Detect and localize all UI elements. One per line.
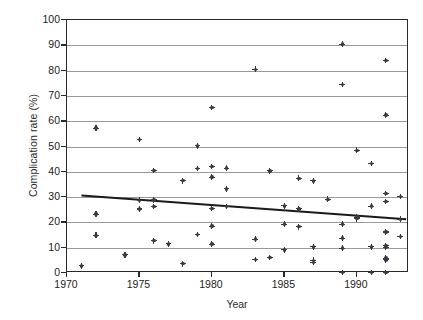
data-point [80, 264, 84, 268]
data-point [384, 230, 388, 234]
y-axis-tick-mark [61, 70, 66, 71]
data-point [297, 225, 301, 229]
data-point [384, 271, 388, 275]
data-point [399, 235, 403, 239]
data-point [283, 204, 287, 208]
y-axis-tick-label: 80 [26, 65, 60, 76]
y-axis-tick-label: 50 [26, 141, 60, 152]
data-point [94, 126, 98, 130]
x-axis-tick-label: 1980 [191, 278, 231, 290]
data-point [210, 165, 214, 169]
data-point [225, 205, 229, 209]
data-point [384, 192, 388, 196]
data-point [384, 59, 388, 63]
data-point [210, 224, 214, 228]
data-point [355, 149, 359, 153]
chart-figure: Complication rate (%) 010203040506070809… [0, 0, 423, 320]
data-point [370, 204, 374, 208]
data-point [123, 253, 127, 257]
data-point [341, 222, 345, 226]
data-point [94, 212, 98, 216]
data-point [384, 245, 388, 249]
data-point [152, 169, 156, 173]
data-point [370, 162, 374, 166]
data-point [138, 207, 142, 211]
data-point [297, 207, 301, 211]
data-point [138, 199, 142, 203]
data-point [283, 248, 287, 252]
data-point [384, 113, 388, 117]
data-point [225, 166, 229, 170]
data-point [94, 234, 98, 238]
data-point [196, 167, 200, 171]
data-point [210, 106, 214, 110]
data-point [268, 256, 272, 260]
y-axis-tick-label: 30 [26, 191, 60, 202]
y-axis-tick-mark [61, 95, 66, 96]
y-axis-tick-mark [61, 221, 66, 222]
x-axis-tick-mark [138, 272, 139, 277]
data-point [399, 195, 403, 199]
data-point [297, 177, 301, 181]
data-point [341, 42, 345, 46]
y-axis-tick-mark [61, 44, 66, 45]
y-axis-tick-mark [61, 19, 66, 20]
data-point [326, 198, 330, 202]
data-point [341, 271, 345, 275]
data-point [138, 138, 142, 142]
y-axis-tick-mark [61, 146, 66, 147]
data-point [152, 205, 156, 209]
y-axis-tick-label: 20 [26, 216, 60, 227]
data-point [152, 239, 156, 243]
y-axis-tick-label: 60 [26, 115, 60, 126]
data-point [268, 169, 272, 173]
x-axis-tick-mark [211, 272, 212, 277]
data-point [254, 68, 258, 72]
x-axis-tick-label: 1985 [263, 278, 303, 290]
x-axis-tick-mark [356, 272, 357, 277]
x-axis-tick-mark [283, 272, 284, 277]
data-point [196, 144, 200, 148]
x-axis-tick-mark [66, 272, 67, 277]
y-axis-tick-label: 90 [26, 39, 60, 50]
data-points [67, 20, 407, 271]
y-axis-tick-mark [61, 247, 66, 248]
data-point [254, 258, 258, 262]
data-point [312, 179, 316, 183]
data-point [210, 175, 214, 179]
data-point [341, 236, 345, 240]
data-point [384, 200, 388, 204]
plot-area [66, 19, 408, 272]
x-axis-tick-label: 1970 [46, 278, 86, 290]
data-point [312, 261, 316, 265]
data-point [370, 271, 374, 275]
data-point [152, 198, 156, 202]
y-axis-tick-label: 70 [26, 90, 60, 101]
data-point [196, 233, 200, 237]
data-point [384, 258, 388, 262]
data-point [370, 245, 374, 249]
y-axis-tick-mark [61, 120, 66, 121]
data-point [210, 207, 214, 211]
x-axis-tick-label: 1990 [336, 278, 376, 290]
data-point [355, 217, 359, 221]
y-axis-tick-label: 10 [26, 242, 60, 253]
y-axis-tick-label: 0 [26, 267, 60, 278]
data-point [210, 242, 214, 246]
data-point [341, 246, 345, 250]
y-axis-tick-mark [61, 171, 66, 172]
data-point [254, 237, 258, 241]
data-point [341, 83, 345, 87]
data-point [312, 245, 316, 249]
data-point [399, 218, 403, 222]
y-axis-tick-mark [61, 196, 66, 197]
y-axis-tick-label: 40 [26, 166, 60, 177]
data-point [283, 222, 287, 226]
data-point [181, 179, 185, 183]
x-axis-title: Year [66, 298, 408, 310]
data-point [181, 262, 185, 266]
x-axis-tick-label: 1975 [118, 278, 158, 290]
data-point [167, 242, 171, 246]
y-axis-tick-label: 100 [26, 14, 60, 25]
data-point [225, 187, 229, 191]
